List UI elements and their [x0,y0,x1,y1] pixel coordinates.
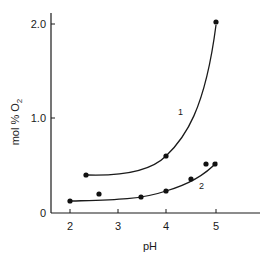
x-tick-label-2: 2 [67,220,73,232]
x-tick-label-3: 3 [115,220,121,232]
curve-1 [87,25,216,175]
series-2-label: 2 [199,181,204,191]
curve-2 [72,162,217,201]
series-2-point [212,161,217,166]
x-tick-label-4: 4 [163,220,169,232]
svg-text:mol % O2: mol % O2 [9,98,24,145]
x-tick-label-5: 5 [213,220,219,232]
series-2-point [67,198,72,203]
y-tick-label-0: 0 [40,207,46,219]
y-axis-label: mol % O2 [9,98,24,145]
chart-svg: 2.0 1.0 0 2 3 4 5 pH mol % O2 1 2 [0,0,265,255]
series-1-point [163,153,168,158]
x-axis-label: pH [143,240,157,252]
y-tick-label-1: 1.0 [31,112,46,124]
y-tick-label-2: 2.0 [31,18,46,30]
series-2-point [188,176,193,181]
series-2-point [96,191,101,196]
series-2-point [163,188,168,193]
series-1-point [83,172,88,177]
series-1-point [213,19,218,24]
series-2-point [203,161,208,166]
series-1-label: 1 [178,107,183,117]
series-2-point [138,194,143,199]
